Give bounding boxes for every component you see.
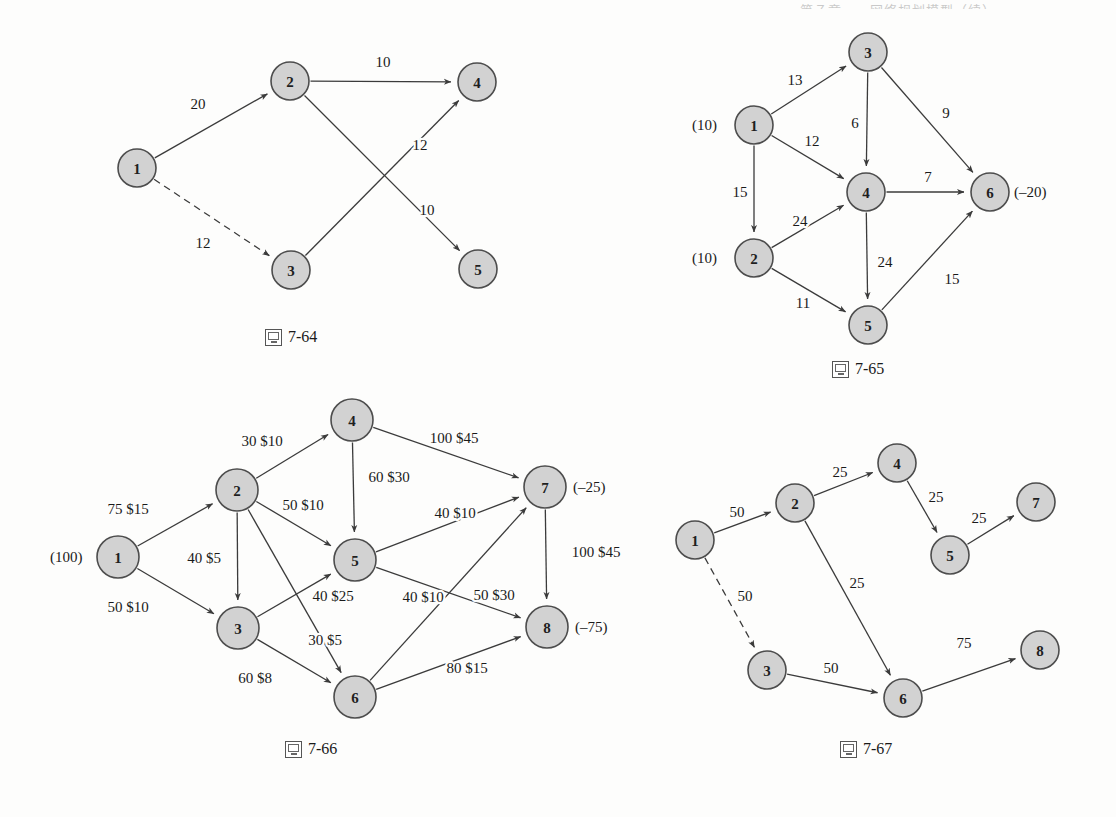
page-header-sliver: 第７章 网络规划模型（续）: [800, 0, 1090, 9]
node-label-4: 4: [348, 413, 356, 429]
book-icon: [832, 361, 849, 378]
graph-node-6[interactable]: 6: [334, 676, 376, 718]
figure-caption-text: 7-65: [855, 360, 884, 378]
node-layer: 123456(10)(10)(–20): [692, 33, 1047, 344]
edge-label-1-to-3: 50 $10: [107, 599, 148, 615]
node-label-7: 7: [541, 480, 549, 496]
edge-label-6-to-7: 40 $10: [402, 589, 443, 605]
supply-demand-label-node-1: (10): [692, 117, 717, 134]
graph-node-3[interactable]: 3: [217, 607, 259, 649]
graph-node-7[interactable]: 7: [1017, 483, 1055, 521]
graph-node-1[interactable]: 1: [676, 521, 714, 559]
book-icon: [265, 329, 282, 346]
figure-caption-7-64: 7-64: [265, 328, 317, 346]
edge-1-to-2: [714, 512, 770, 533]
edge-label-1-to-2: 15: [733, 184, 748, 200]
supply-demand-label-node-7: (–25): [573, 479, 606, 496]
node-label-4: 4: [893, 456, 901, 472]
edge-1-to-3: [137, 568, 214, 613]
graph-node-6[interactable]: 6: [884, 679, 922, 717]
edge-label-3-to-5: 40 $25: [312, 588, 353, 604]
graph-node-7[interactable]: 7: [524, 466, 566, 508]
graph-node-1[interactable]: 1: [118, 149, 156, 187]
graph-node-8[interactable]: 8: [526, 606, 568, 648]
edge-label-1-to-4: 12: [805, 133, 820, 149]
edge-label-halo: 30 $10: [241, 433, 282, 449]
edge-2-to-4: [311, 81, 452, 82]
graph-node-4[interactable]: 4: [878, 444, 916, 482]
edge-2-to-6: [248, 510, 341, 673]
graph-node-2[interactable]: 2: [776, 484, 814, 522]
graph-node-5[interactable]: 5: [849, 306, 887, 344]
graph-node-1[interactable]: 1: [735, 106, 773, 144]
edge-4-to-7: [373, 427, 518, 477]
graph-node-5[interactable]: 5: [931, 536, 969, 574]
network-diagram-7-64: 2020121210101010121212345: [0, 0, 1116, 817]
edge-label-halo: 50 $10: [282, 497, 323, 513]
edge-1-to-2: [155, 94, 268, 158]
edge-label-halo: 40 $10: [434, 505, 475, 521]
edge-3-to-4: [866, 73, 867, 167]
edge-label-halo: 60 $8: [238, 670, 272, 686]
edge-3-to-5: [257, 574, 330, 617]
edge-label-5-to-6: 15: [945, 271, 960, 287]
edge-label-halo: 13: [788, 72, 803, 88]
edge-label-halo: 15: [945, 271, 960, 287]
edge-label-halo: 60 $30: [368, 469, 409, 485]
network-diagram-7-65: 1313121215156699242411117724241515123456…: [0, 0, 1116, 817]
edge-label-halo: 25: [929, 489, 944, 505]
node-label-2: 2: [791, 496, 799, 512]
edge-label-halo: 50 $30: [473, 587, 514, 603]
graph-node-6[interactable]: 6: [971, 173, 1009, 211]
node-label-5: 5: [864, 318, 872, 334]
edge-2-to-5: [256, 501, 331, 545]
graph-node-3[interactable]: 3: [849, 33, 887, 71]
graph-node-4[interactable]: 4: [331, 399, 373, 441]
figure-caption-text: 7-67: [863, 740, 892, 758]
graph-node-1[interactable]: 1: [97, 536, 139, 578]
edge-label-2-to-6: 30 $5: [308, 632, 342, 648]
edge-label-3-to-4: 6: [851, 115, 859, 131]
edge-5-to-8: [376, 567, 520, 617]
graph-node-2[interactable]: 2: [735, 239, 773, 277]
node-label-6: 6: [351, 690, 359, 706]
node-layer: 12345: [118, 62, 497, 289]
edge-label-halo: 12: [805, 133, 820, 149]
graph-node-2[interactable]: 2: [271, 62, 309, 100]
edge-3-to-6: [881, 67, 972, 172]
edge-label-2-to-3: 40 $5: [187, 550, 221, 566]
edge-label-1-to-2: 20: [191, 96, 206, 112]
edge-label-3-to-6: 60 $8: [238, 670, 272, 686]
edge-label-1-to-3: 50: [738, 588, 753, 604]
graph-node-4[interactable]: 4: [847, 173, 885, 211]
edge-label-1-to-3: 13: [788, 72, 803, 88]
figure-caption-7-65: 7-65: [832, 360, 884, 378]
graph-node-4[interactable]: 4: [458, 63, 496, 101]
edge-label-halo: 12: [196, 235, 211, 251]
graph-node-2[interactable]: 2: [216, 469, 258, 511]
network-diagram-7-67: 5050505025252525252525255050757512345678: [0, 0, 1116, 817]
edge-label-halo: 20: [191, 96, 206, 112]
edge-2-to-5: [772, 268, 846, 311]
edge-label-1-to-2: 50: [730, 504, 745, 520]
edge-label-3-to-4: 12: [413, 137, 428, 153]
edge-2-to-6: [805, 521, 890, 675]
node-label-2: 2: [750, 251, 758, 267]
edge-label-5-to-8: 50 $30: [473, 587, 514, 603]
edge-label-2-to-5: 11: [796, 295, 810, 311]
graph-node-5[interactable]: 5: [334, 539, 376, 581]
node-label-5: 5: [474, 262, 482, 278]
graph-node-3[interactable]: 3: [748, 651, 786, 689]
node-label-8: 8: [1036, 643, 1044, 659]
node-label-6: 6: [986, 185, 994, 201]
node-label-5: 5: [351, 553, 359, 569]
node-label-7: 7: [1032, 495, 1040, 511]
graph-node-8[interactable]: 8: [1021, 631, 1059, 669]
node-label-3: 3: [864, 45, 872, 61]
graph-node-5[interactable]: 5: [459, 250, 497, 288]
graph-node-3[interactable]: 3: [272, 251, 310, 289]
edge-label-halo: 40 $10: [402, 589, 443, 605]
edge-label-halo: 75 $15: [107, 501, 148, 517]
edge-label-halo: 25: [833, 464, 848, 480]
node-label-1: 1: [133, 161, 141, 177]
